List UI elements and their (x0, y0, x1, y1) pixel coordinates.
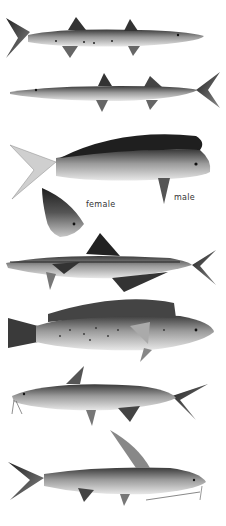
fish-illustration-plate: female male (0, 0, 226, 526)
label-female: female (86, 200, 115, 209)
barracuda-2 (10, 72, 220, 112)
label-male: male (174, 193, 195, 202)
fish-drawings (0, 0, 226, 526)
barracuda-1 (6, 17, 204, 58)
catfish-1 (12, 366, 208, 426)
catfish-2 (8, 430, 206, 506)
seatrout (8, 299, 214, 362)
dolphinfish-female-head (42, 188, 84, 237)
cobia (6, 233, 216, 292)
